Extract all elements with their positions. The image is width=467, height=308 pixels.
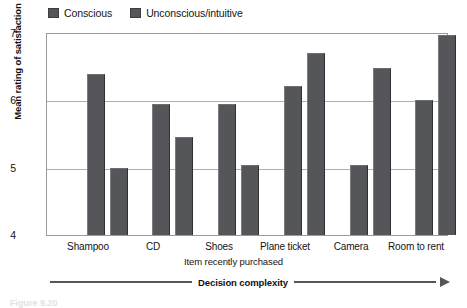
arrow-line-right [294, 281, 436, 283]
x-tick-label-plane-ticket: Plane ticket [260, 241, 310, 252]
legend-item-conscious: Conscious [48, 7, 112, 19]
y-tick-label-5: 5 [0, 162, 16, 174]
y-axis-title: Mean rating of satisfaction [12, 0, 23, 137]
legend-swatch-icon [48, 8, 59, 18]
y-tick-label-4: 4 [0, 229, 16, 241]
arrow-head-icon [440, 277, 450, 287]
bar [87, 74, 105, 235]
x-tick-label-room-to-rent: Room to rent [388, 241, 444, 252]
decision-complexity-label: Decision complexity [198, 277, 288, 288]
figure-caption: Figure 9.20 [10, 298, 58, 308]
y-tick-label-7: 7 [0, 27, 16, 39]
bar [218, 104, 236, 235]
bar [373, 68, 391, 236]
x-tick-label-camera: Camera [334, 241, 369, 252]
arrow-line-left [50, 281, 192, 283]
bar [152, 104, 170, 235]
legend-item-unconscious: Unconscious/intuitive [130, 7, 243, 19]
bar [350, 165, 368, 235]
bar [241, 165, 259, 235]
decision-complexity-annotation: Decision complexity [50, 274, 450, 290]
bar [307, 53, 325, 235]
legend-swatch-icon [130, 8, 141, 18]
bar [438, 35, 456, 235]
legend-label: Conscious [64, 7, 112, 19]
bar [110, 168, 128, 235]
x-axis-title: Item recently purchased [0, 256, 467, 267]
bar [175, 137, 193, 235]
bar [415, 100, 433, 235]
legend-label: Unconscious/intuitive [146, 7, 243, 19]
chart-legend: Conscious Unconscious/intuitive [48, 4, 243, 22]
x-tick-label-cd: CD [146, 241, 160, 252]
bars-layer [47, 34, 447, 235]
y-tick-label-6: 6 [0, 94, 16, 106]
plot-area [46, 33, 448, 236]
x-tick-label-shoes: Shoes [205, 241, 233, 252]
x-tick-label-shampoo: Shampoo [67, 241, 109, 252]
bar [284, 86, 302, 235]
